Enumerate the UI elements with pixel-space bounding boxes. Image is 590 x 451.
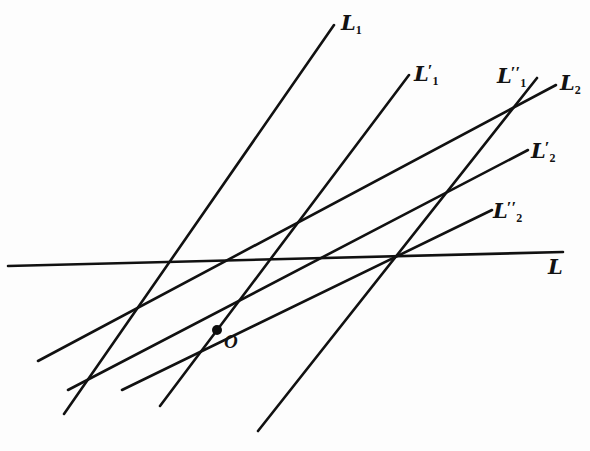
label-L-axis: L bbox=[548, 256, 563, 277]
point-O-label: O bbox=[224, 332, 238, 351]
label-base-glyph: L bbox=[560, 70, 575, 95]
figure-canvas: L1L′1L′′1L2L′2L′′2LO bbox=[0, 0, 590, 451]
label-L1-prime: L′1 bbox=[414, 62, 439, 87]
line-L2 bbox=[38, 85, 556, 361]
point-O bbox=[212, 325, 222, 335]
line-L2-double-prime bbox=[122, 210, 492, 390]
label-base-glyph: L bbox=[341, 10, 356, 35]
label-L2: L2 bbox=[560, 72, 581, 96]
line-L1-prime bbox=[160, 75, 409, 406]
label-base-glyph: L bbox=[531, 138, 546, 163]
label-prime-marks: ′′ bbox=[507, 198, 517, 217]
label-prime-marks: ′′ bbox=[511, 63, 521, 82]
label-base-glyph: L bbox=[414, 61, 429, 86]
points-group bbox=[212, 325, 222, 335]
label-subscript: 2 bbox=[516, 211, 522, 225]
label-subscript: 1 bbox=[520, 76, 526, 90]
label-base-glyph: L bbox=[493, 198, 508, 223]
label-base-glyph: L bbox=[548, 254, 563, 279]
lines-group bbox=[8, 25, 563, 431]
label-subscript: 2 bbox=[575, 83, 581, 97]
label-subscript: 1 bbox=[433, 74, 439, 88]
label-L1-double-prime: L′′1 bbox=[497, 64, 526, 89]
line-L2-prime bbox=[68, 150, 528, 390]
line-L-axis bbox=[8, 252, 563, 266]
label-L1: L1 bbox=[341, 12, 362, 36]
label-L2-prime: L′2 bbox=[531, 139, 556, 164]
label-L2-double-prime: L′′2 bbox=[493, 199, 522, 224]
label-subscript: 2 bbox=[550, 151, 556, 165]
label-subscript: 1 bbox=[356, 23, 362, 37]
label-base-glyph: L bbox=[497, 63, 512, 88]
